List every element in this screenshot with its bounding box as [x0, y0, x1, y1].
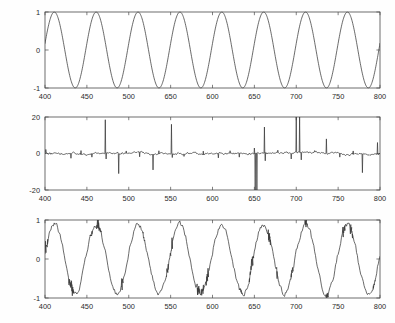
x-tick-label-2-1: 450 [81, 302, 93, 311]
x-tick-label-0-0: 400 [39, 92, 51, 101]
x-tick-label-1-7: 750 [332, 194, 344, 203]
x-tick-label-0-3: 650 [164, 92, 176, 101]
x-tick-label-2-5: 650 [248, 302, 260, 311]
x-tick-label-0-2: 500 [123, 92, 135, 101]
x-tick-label-1-1: 450 [81, 194, 93, 203]
x-tick-label-2-7: 750 [332, 302, 344, 311]
y-tick-label-1-1: 0 [36, 149, 40, 158]
plot-frame-2 [45, 220, 380, 298]
x-tick-label-1-5: 650 [248, 194, 260, 203]
x-tick-label-0-8: 800 [374, 92, 386, 101]
y-tick-label-0-0: -1 [33, 84, 40, 93]
y-tick-label-0-1: 0 [36, 46, 40, 55]
plot-svg-2: 400450500550600650700750800-101 [0, 208, 395, 323]
x-tick-label-2-4: 600 [206, 302, 218, 311]
x-tick-label-2-3: 550 [164, 302, 176, 311]
x-tick-label-1-4: 600 [206, 194, 218, 203]
x-tick-label-0-5: 650 [248, 92, 260, 101]
plot-svg-0: 400450500650600650700750800-101 [0, 0, 395, 107]
x-tick-label-1-0: 400 [39, 194, 51, 203]
x-tick-label-2-2: 500 [123, 302, 135, 311]
y-tick-label-0-2: 1 [36, 8, 40, 17]
x-tick-label-0-1: 450 [81, 92, 93, 101]
x-tick-label-2-0: 400 [39, 302, 51, 311]
plot-frame-0 [45, 12, 380, 88]
y-tick-label-1-2: 20 [32, 113, 40, 122]
y-tick-label-2-2: 1 [36, 216, 40, 225]
x-tick-label-2-6: 700 [290, 302, 302, 311]
x-tick-label-1-2: 500 [123, 194, 135, 203]
chart-panel-bottom: 400450500550600650700750800-101 [0, 208, 395, 323]
plot-svg-1: 400450500550600650700750800-20020 [0, 107, 395, 208]
y-tick-label-2-0: -1 [33, 294, 40, 303]
x-tick-label-1-3: 550 [164, 194, 176, 203]
x-tick-label-0-6: 700 [290, 92, 302, 101]
y-tick-label-2-1: 0 [36, 255, 40, 264]
x-tick-label-0-7: 750 [332, 92, 344, 101]
x-tick-label-2-8: 800 [374, 302, 386, 311]
x-tick-label-0-4: 600 [206, 92, 218, 101]
chart-panel-top: 400450500650600650700750800-101 [0, 0, 395, 107]
y-tick-label-1-0: -20 [29, 186, 40, 195]
x-tick-label-1-6: 700 [290, 194, 302, 203]
x-tick-label-1-8: 800 [374, 194, 386, 203]
figure-container: 400450500650600650700750800-101 40045050… [0, 0, 395, 323]
chart-panel-middle: 400450500550600650700750800-20020 [0, 107, 395, 208]
